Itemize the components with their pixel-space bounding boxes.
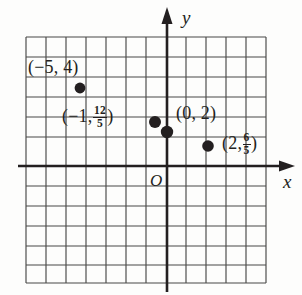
- label-lead: (−1,: [62, 107, 92, 125]
- label-lead: (2,: [222, 134, 242, 152]
- y-axis: [162, 7, 173, 292]
- fraction-denominator: 5: [243, 144, 251, 157]
- label-trail: ): [107, 107, 113, 125]
- x-axis: [18, 161, 295, 172]
- point-label-2-six-fifths: (2, 65): [222, 133, 257, 157]
- fraction-numerator: 6: [243, 132, 251, 144]
- fraction-twelve-fifths: 125: [93, 105, 107, 129]
- point-label-neg5-4: (−5, 4): [28, 58, 79, 76]
- fraction-six-fifths: 65: [243, 132, 251, 156]
- fraction-denominator: 5: [93, 117, 107, 130]
- coordinate-plane-figure: (−5, 4) (−1, 125) (0, 2) (2, 65) y x O: [0, 0, 302, 295]
- data-point: [75, 83, 86, 94]
- point-label-0-2: (0, 2): [176, 104, 216, 122]
- fraction-numerator: 12: [93, 105, 107, 117]
- x-axis-label: x: [283, 172, 291, 191]
- label-trail: ): [251, 134, 257, 152]
- point-label-neg1-twelve-fifths: (−1, 125): [62, 106, 114, 130]
- data-point: [161, 126, 173, 138]
- data-point: [149, 116, 161, 128]
- y-axis-label: y: [182, 8, 190, 27]
- origin-label: O: [150, 172, 162, 189]
- data-point: [202, 140, 214, 152]
